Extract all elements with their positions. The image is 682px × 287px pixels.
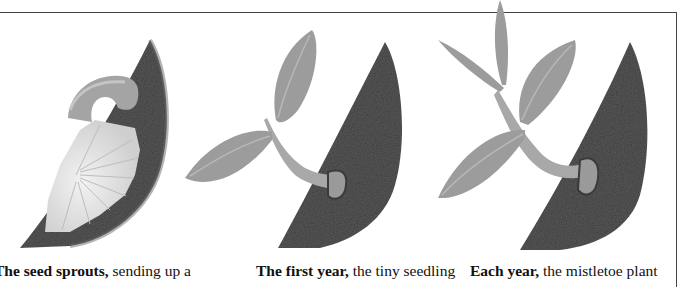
leaf-right-upper	[519, 40, 576, 125]
caption-first-year: The first year, the tiny seedling	[256, 262, 455, 280]
caption-seed-sprouts: The seed sprouts, sending up a	[0, 262, 191, 280]
panel-each-year: Each year, the mistletoe plant	[420, 0, 676, 250]
leaf-lower	[185, 131, 272, 182]
mature-mistletoe-illustration	[420, 0, 676, 250]
first-year-seedling-illustration	[180, 0, 430, 250]
leaf-left-upper	[438, 40, 504, 92]
holdfast	[578, 158, 598, 194]
holdfast	[328, 171, 346, 199]
leaf-top	[495, 0, 508, 85]
panel-first-year: The first year, the tiny seedling	[180, 0, 430, 250]
figure-frame-right-border	[676, 12, 677, 287]
caption-each-year: Each year, the mistletoe plant	[470, 262, 658, 280]
